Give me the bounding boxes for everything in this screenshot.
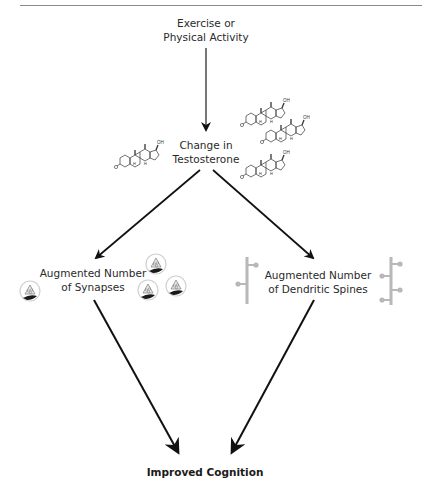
node-spines-line2: of Dendritic Spines [262,282,374,296]
diagram-canvas: OH H H [0,0,422,489]
arrow-testosterone-to-synapses [96,170,200,258]
node-exercise-line2: Physical Activity [156,30,256,44]
testosterone-molecule-icon [240,98,289,127]
node-testosterone-line1: Change in [166,138,246,152]
arrow-synapses-to-cognition [94,300,178,452]
node-exercise: Exercise or Physical Activity [156,16,256,44]
synapse-icon [166,276,186,296]
synapse-icon [20,281,40,301]
node-testosterone-line2: Testosterone [166,152,246,166]
node-testosterone: Change in Testosterone [166,138,246,166]
node-synapses-line2: of Synapses [38,280,148,294]
testosterone-molecule-icon [114,140,163,169]
dendrite-icon [235,257,258,304]
testosterone-molecule-icon [260,115,309,144]
dendrite-icon [379,257,402,305]
node-synapses: Augmented Number of Synapses [38,266,148,294]
node-cognition: Improved Cognition [145,465,265,479]
node-spines-line1: Augmented Number [262,268,374,282]
testosterone-molecule-icon [240,150,289,179]
synapse-icon [146,254,166,274]
arrow-testosterone-to-spines [213,170,313,258]
node-cognition-label: Improved Cognition [147,466,264,478]
node-spines: Augmented Number of Dendritic Spines [262,268,374,296]
node-exercise-line1: Exercise or [156,16,256,30]
node-synapses-line1: Augmented Number [38,266,148,280]
arrow-spines-to-cognition [232,300,314,452]
